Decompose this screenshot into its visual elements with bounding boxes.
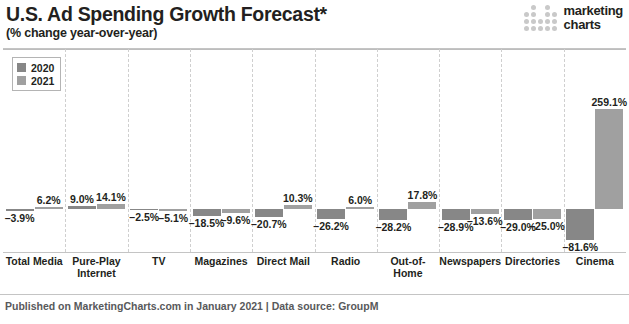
logo-wordmark-line1: marketing	[564, 4, 623, 18]
chart-header: U.S. Ad Spending Growth Forecast* (% cha…	[0, 0, 629, 48]
x-tick-out-of-home: Out-of-Home	[377, 256, 439, 279]
bar-value-label: –28.2%	[362, 221, 424, 233]
x-tick-direct-mail: Direct Mail	[252, 256, 314, 268]
bar-group: –81.6%259.1%	[564, 49, 626, 252]
x-tick-magazines: Magazines	[190, 256, 252, 268]
chart-plot-area: –3.9%6.2%9.0%14.1%–2.5%–5.1%–18.5%–9.6%–…	[3, 48, 626, 253]
bar-2021	[408, 202, 436, 209]
marketingcharts-logo: marketing charts	[524, 4, 623, 32]
bar-2021	[595, 109, 623, 209]
legend-label-2020: 2020	[31, 62, 54, 74]
chart-legend: 2020 2021	[12, 57, 61, 91]
bar-2020	[566, 209, 594, 240]
bar-2020	[68, 206, 96, 209]
logo-dot-matrix-icon	[524, 5, 557, 31]
bar-2021	[97, 204, 125, 209]
x-tick-cinema: Cinema	[564, 256, 626, 268]
bar-2020	[504, 209, 532, 220]
x-axis-tick-labels: Total MediaPure-Play InternetTVMagazines…	[3, 256, 626, 292]
bar-2021	[346, 207, 374, 209]
legend-item-2020: 2020	[17, 61, 54, 74]
x-tick-total-media: Total Media	[3, 256, 65, 268]
legend-item-2021: 2021	[17, 74, 54, 87]
x-tick-tv: TV	[128, 256, 190, 268]
footer-divider	[0, 294, 629, 295]
x-tick-directories: Directories	[501, 256, 563, 268]
logo-wordmark: marketing charts	[564, 4, 623, 32]
bar-value-label: –26.2%	[300, 220, 362, 232]
bar-group: –29.0%–25.0%	[501, 49, 563, 252]
logo-wordmark-line2: charts	[564, 18, 623, 32]
bar-2020	[255, 209, 283, 217]
legend-swatch-2020	[17, 63, 26, 72]
bar-2020	[317, 209, 345, 219]
bar-2020	[6, 209, 34, 211]
bar-2021	[222, 209, 250, 213]
x-tick-pure-play-internet: Pure-Play Internet	[65, 256, 127, 279]
bar-2021	[159, 209, 187, 211]
bar-2021	[284, 205, 312, 209]
bar-value-label: –3.9%	[0, 212, 51, 224]
bar-2021	[471, 209, 499, 214]
bar-2020	[130, 209, 158, 210]
x-tick-radio: Radio	[315, 256, 377, 268]
legend-label-2021: 2021	[31, 75, 54, 87]
page-title: U.S. Ad Spending Growth Forecast*	[6, 3, 327, 26]
bar-2021	[533, 209, 561, 219]
bar-2020	[379, 209, 407, 220]
bar-value-label: –81.6%	[549, 241, 611, 253]
x-tick-newspapers: Newspapers	[439, 256, 501, 268]
legend-swatch-2021	[17, 76, 26, 85]
bar-value-label: –20.7%	[238, 218, 300, 230]
footer-attribution: Published on MarketingCharts.com in Janu…	[5, 300, 378, 312]
bar-value-label: 259.1%	[578, 96, 629, 108]
page-subtitle: (% change year-over-year)	[6, 26, 157, 40]
bar-2021	[35, 207, 63, 209]
